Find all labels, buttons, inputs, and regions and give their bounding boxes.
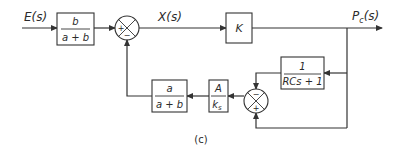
summing-junction-1: + − xyxy=(115,16,139,40)
feedback-gain-block: a a + b xyxy=(152,80,187,112)
feedback-gain-numerator: a xyxy=(166,83,172,94)
input-signal-label: E(s) xyxy=(24,10,47,24)
lag-numerator: 1 xyxy=(299,61,305,72)
sum2-minus-sign: − xyxy=(253,90,260,99)
input-gain-numerator: b xyxy=(72,16,78,27)
arrow-lag-to-sum2 xyxy=(256,73,281,89)
block-diagram: E(s) b a + b + − X(s) K Pc(s) 1 RCs + 1 xyxy=(0,0,404,150)
arrow-feedback-to-sum1 xyxy=(127,40,152,96)
feedback-gain-denominator: a + b xyxy=(156,99,183,110)
sensor-numerator: A xyxy=(214,83,222,94)
input-gain-denominator: a + b xyxy=(62,32,89,43)
sensor-block: A ks xyxy=(209,80,228,112)
lag-denominator: RCs + 1 xyxy=(282,76,322,87)
output-signal-label: Pc(s) xyxy=(352,9,379,25)
intermediate-signal-label: X(s) xyxy=(157,10,182,24)
forward-gain-block: K xyxy=(226,13,252,43)
sum1-minus-sign: − xyxy=(124,31,131,40)
input-gain-block: b a + b xyxy=(57,13,94,45)
sum2-plus-sign: + xyxy=(253,104,260,113)
summing-junction-2: − + xyxy=(244,89,268,113)
arrow-branch-to-sum2 xyxy=(256,113,347,128)
figure-label: (c) xyxy=(194,134,207,145)
lag-block: 1 RCs + 1 xyxy=(281,57,324,89)
forward-gain-label: K xyxy=(235,22,243,35)
